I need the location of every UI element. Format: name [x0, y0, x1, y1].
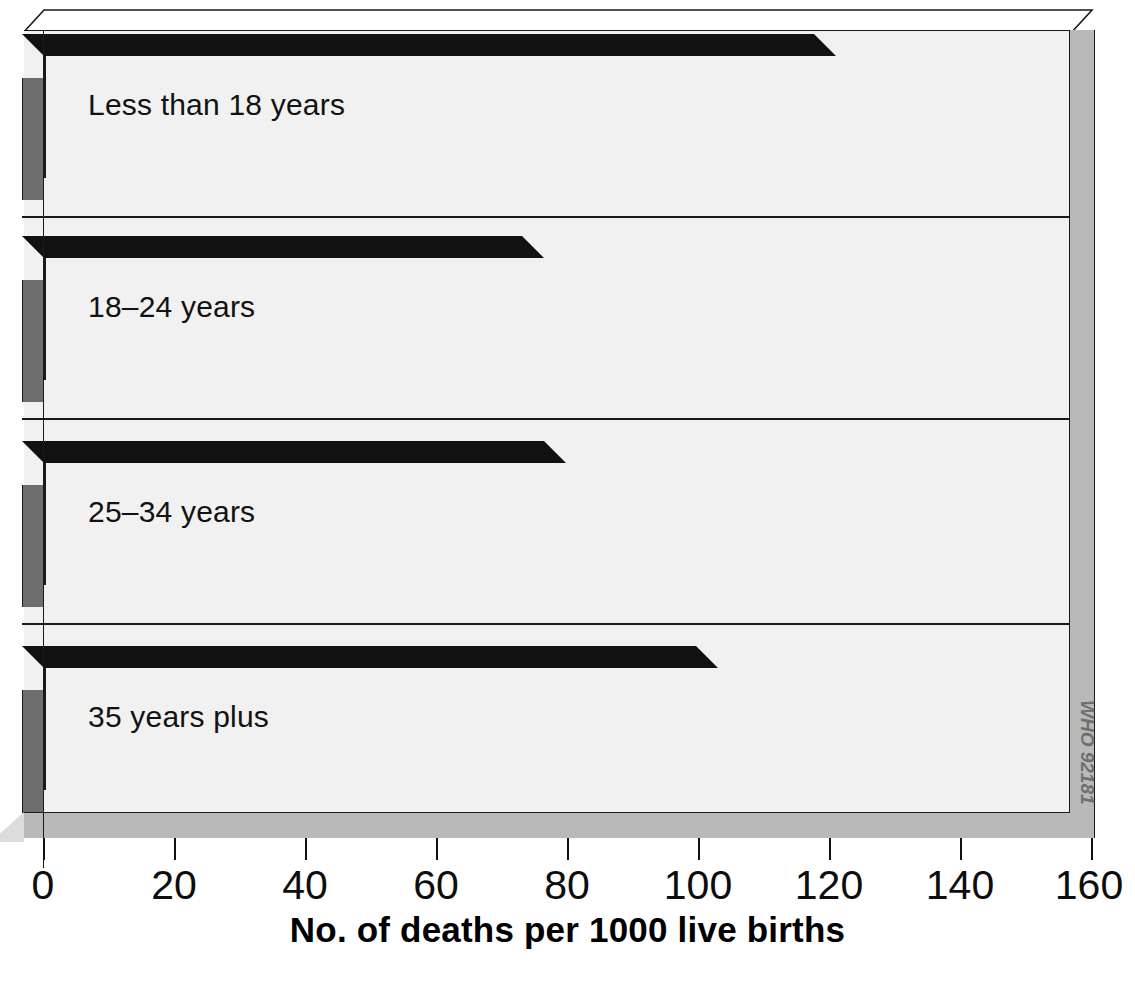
x-tick-40 — [305, 838, 307, 860]
x-tick-label: 80 — [544, 862, 590, 909]
bar-side-face — [22, 485, 44, 607]
x-tick-label: 0 — [32, 862, 55, 909]
bar-label: Less than 18 years — [88, 88, 345, 122]
bar-chart: Less than 18 years 18–24 years 25–34 yea… — [0, 0, 1135, 984]
x-tick-label: 100 — [664, 862, 732, 909]
zero-axis-line — [43, 30, 44, 868]
x-tick-label: 40 — [282, 862, 328, 909]
bar-side-face — [22, 280, 44, 402]
bar-top-face — [22, 441, 566, 463]
bar-front-face — [44, 668, 46, 790]
x-tick-100 — [698, 838, 700, 860]
bar-less-than-18-years: Less than 18 years — [44, 56, 858, 178]
bar-18-24-years: 18–24 years — [44, 258, 566, 380]
x-tick-140 — [960, 838, 962, 860]
x-tick-0 — [43, 838, 45, 860]
x-tick-label: 160 — [1055, 862, 1123, 909]
bar-35-years-plus: 35 years plus — [44, 668, 740, 790]
gridline-1 — [22, 216, 1070, 218]
gridline-3 — [22, 623, 1070, 625]
gridline-2 — [22, 418, 1070, 420]
x-tick-120 — [829, 838, 831, 860]
x-tick-label: 120 — [795, 862, 863, 909]
x-tick-label: 20 — [151, 862, 197, 909]
bar-side-face — [22, 690, 44, 812]
x-axis: 0 20 40 60 80 100 120 140 160 — [0, 838, 1135, 908]
x-tick-label: 140 — [926, 862, 994, 909]
x-tick-60 — [436, 838, 438, 860]
bar-25-34-years: 25–34 years — [44, 463, 588, 585]
x-tick-20 — [174, 838, 176, 860]
bar-top-face — [22, 646, 718, 668]
bar-label: 18–24 years — [88, 290, 255, 324]
bar-front-face — [44, 463, 46, 585]
x-tick-80 — [567, 838, 569, 860]
bar-front-face — [44, 258, 46, 380]
x-axis-title: No. of deaths per 1000 live births — [0, 910, 1135, 950]
plot-left-wall — [0, 8, 24, 838]
plot-floor — [22, 812, 1070, 838]
bar-top-face — [22, 236, 544, 258]
bar-side-face — [22, 78, 44, 200]
plot-area: Less than 18 years 18–24 years 25–34 yea… — [0, 0, 1135, 860]
who-watermark: WHO 92181 — [1076, 700, 1098, 805]
bar-top-face — [22, 34, 836, 56]
x-tick-160 — [1091, 838, 1093, 860]
bar-front-face — [44, 56, 46, 178]
bar-label: 35 years plus — [88, 700, 269, 734]
x-tick-label: 60 — [413, 862, 459, 909]
bar-label: 25–34 years — [88, 495, 255, 529]
